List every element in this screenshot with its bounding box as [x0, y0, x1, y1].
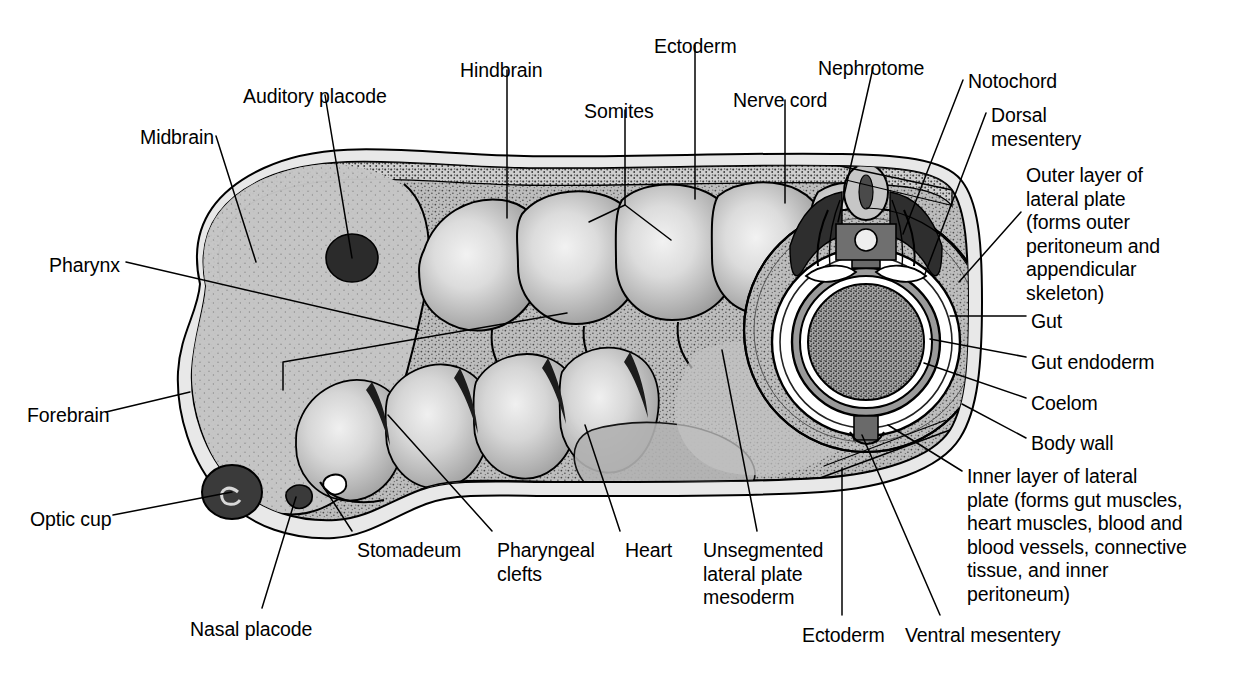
label-gut: Gut	[1031, 310, 1062, 334]
label-pharynx: Pharynx	[49, 254, 120, 278]
label-pharyngeal-clefts: Pharyngeal clefts	[497, 539, 595, 586]
label-inner-layer: Inner layer of lateral plate (forms gut …	[967, 465, 1187, 606]
label-somites: Somites	[584, 100, 654, 124]
leader-line-forebrain	[106, 392, 190, 412]
label-midbrain: Midbrain	[140, 126, 214, 150]
label-gut-endoderm: Gut endoderm	[1031, 351, 1154, 375]
label-outer-layer: Outer layer of lateral plate (forms oute…	[1026, 164, 1160, 305]
label-ectoderm-top: Ectoderm	[654, 35, 737, 59]
leader-line-body-wall	[962, 404, 1026, 438]
label-hindbrain: Hindbrain	[460, 59, 543, 83]
label-stomadeum: Stomadeum	[357, 539, 461, 563]
label-body-wall: Body wall	[1031, 432, 1114, 456]
label-dorsal-mesentery: Dorsal mesentery	[991, 104, 1081, 151]
label-heart: Heart	[625, 539, 672, 563]
label-nerve-cord: Nerve cord	[733, 89, 827, 113]
label-optic-cup: Optic cup	[30, 508, 111, 532]
label-nephrotome: Nephrotome	[818, 57, 924, 81]
label-ventral-mesentery: Ventral mesentery	[905, 624, 1060, 648]
label-unsegmented-lpm: Unsegmented lateral plate mesoderm	[703, 539, 823, 610]
label-forebrain: Forebrain	[27, 404, 110, 428]
label-notochord: Notochord	[968, 70, 1057, 94]
figure-canvas: MidbrainAuditory placodeHindbrainSomites…	[0, 0, 1243, 673]
label-auditory-placode: Auditory placode	[243, 85, 387, 109]
embryo-body	[178, 149, 988, 538]
label-ectoderm-bottom: Ectoderm	[802, 624, 885, 648]
label-coelom: Coelom	[1031, 392, 1098, 416]
label-nasal-placode: Nasal placode	[190, 618, 312, 642]
nasal-placode-shape	[286, 485, 312, 508]
